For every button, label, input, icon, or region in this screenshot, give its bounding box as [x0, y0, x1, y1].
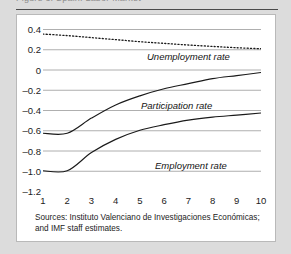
y-axis-labels: 0.40.20–0.2–0.4–0.6–0.8–1.0–1.2 — [17, 29, 41, 191]
x-axis-tick-label: 7 — [186, 195, 191, 206]
series-label-participation-rate: Participation rate — [141, 100, 212, 111]
y-axis-tick-label: 0.2 — [28, 44, 41, 55]
x-axis-tick-label: 1 — [40, 195, 45, 206]
x-axis-tick-label: 4 — [113, 195, 118, 206]
y-axis-tick-label: –0.8 — [23, 145, 42, 156]
y-axis-tick-label: –0.6 — [23, 125, 42, 136]
y-axis-tick-label: 0 — [36, 64, 41, 75]
figure-panel: 0.40.20–0.2–0.4–0.6–0.8–1.0–1.2 Unemploy… — [16, 14, 276, 242]
y-axis-tick-label: –0.4 — [23, 105, 42, 116]
y-axis-tick-label: –1.0 — [23, 165, 42, 176]
source-note: Sources: Instituto Valenciano de Investi… — [35, 212, 263, 234]
figure-heading: Figure 3. Spain: Labor Market — [16, 0, 141, 3]
x-axis-tick-label: 6 — [161, 195, 166, 206]
y-axis-tick-label: 0.4 — [28, 24, 41, 35]
x-axis-tick-label: 10 — [256, 195, 267, 206]
y-axis-tick-label: –1.2 — [23, 186, 42, 197]
x-axis-tick-label: 8 — [210, 195, 215, 206]
x-axis-tick-label: 5 — [137, 195, 142, 206]
x-axis-labels: 12345678910 — [43, 195, 261, 209]
x-axis-tick-label: 3 — [89, 195, 94, 206]
plot-area: Unemployment rate Participation rate Emp… — [43, 29, 261, 191]
x-axis-tick-label: 9 — [234, 195, 239, 206]
series-label-unemployment-rate: Unemployment rate — [147, 51, 230, 62]
heading-rule — [16, 9, 278, 10]
series-label-employment-rate: Employment rate — [155, 160, 227, 171]
figure-page: Figure 3. Spain: Labor Market 0.40.20–0.… — [0, 0, 291, 254]
series-line — [43, 113, 261, 172]
y-axis-tick-label: –0.2 — [23, 84, 42, 95]
series-line — [43, 34, 261, 49]
x-axis-tick-label: 2 — [65, 195, 70, 206]
